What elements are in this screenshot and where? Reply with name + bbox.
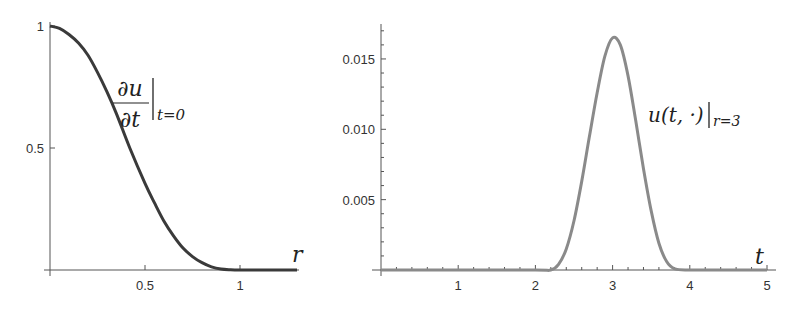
y-tick-label: 0.005 <box>342 193 375 208</box>
annotation-main: u(t, ·) <box>648 103 704 127</box>
annotation-subscript: r=3 <box>713 113 740 129</box>
annotation-denominator: ∂t <box>120 107 140 132</box>
y-tick-label: 1 <box>37 19 44 34</box>
figure: 0.510.51r∂u∂tt=0 123450.0050.0100.015tu(… <box>0 0 795 309</box>
x-axis-label: t <box>755 244 764 269</box>
x-axis-label: r <box>292 242 304 267</box>
y-tick-label: 0.010 <box>342 122 375 137</box>
x-tick-label: 3 <box>609 278 616 293</box>
y-tick-label: 0.015 <box>342 52 375 67</box>
x-tick-label: 0.5 <box>136 278 154 293</box>
left-plot: 0.510.51r∂u∂tt=0 <box>26 19 304 293</box>
curve-du-dt <box>50 26 297 270</box>
x-tick-label: 1 <box>236 278 243 293</box>
x-tick-label: 2 <box>532 278 539 293</box>
x-tick-label: 1 <box>455 278 462 293</box>
annotation-numerator: ∂u <box>117 76 143 101</box>
curve-u-at-r3 <box>381 37 767 270</box>
right-plot: 123450.0050.0100.015tu(t, ·)r=3 <box>342 24 776 293</box>
annotation-subscript: t=0 <box>157 106 186 124</box>
x-tick-label: 5 <box>763 278 770 293</box>
y-tick-label: 0.5 <box>26 141 44 156</box>
x-tick-label: 4 <box>686 278 693 293</box>
